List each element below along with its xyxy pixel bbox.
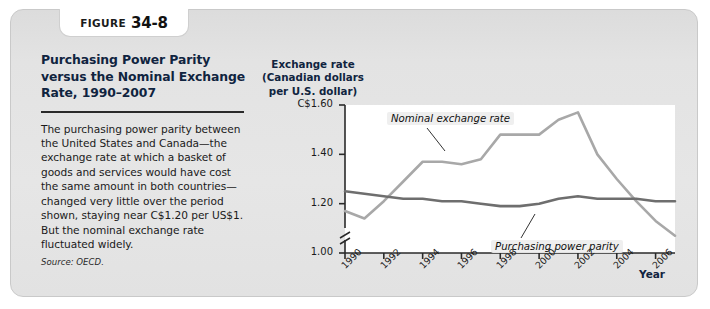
title-divider <box>41 111 244 113</box>
annotation-nominal-exchange-rate: Nominal exchange rate <box>387 112 514 125</box>
y-tick-label: 1.40 <box>275 147 333 158</box>
figure-text-column: Purchasing Power Parity versus the Nomin… <box>41 52 246 267</box>
figure-panel: FIGURE 34-8 Purchasing Power Parity vers… <box>10 9 698 297</box>
figure-source: Source: OECD. <box>41 257 246 267</box>
chart-area: Exchange rate (Canadian dollars per U.S.… <box>259 50 689 290</box>
figure-number: 34-8 <box>131 14 168 32</box>
figure-title: Purchasing Power Parity versus the Nomin… <box>41 52 246 102</box>
y-tick-label: 1.00 <box>275 246 333 257</box>
figure-number-tab: FIGURE 34-8 <box>59 9 189 37</box>
y-tick-label: 1.20 <box>275 197 333 208</box>
x-axis-title: Year <box>639 268 665 280</box>
figure-caption-body: The purchasing power parity between the … <box>41 122 246 252</box>
figure-label: FIGURE <box>80 17 126 29</box>
y-tick-label: C$1.60 <box>275 98 333 109</box>
plot-background <box>345 105 675 253</box>
